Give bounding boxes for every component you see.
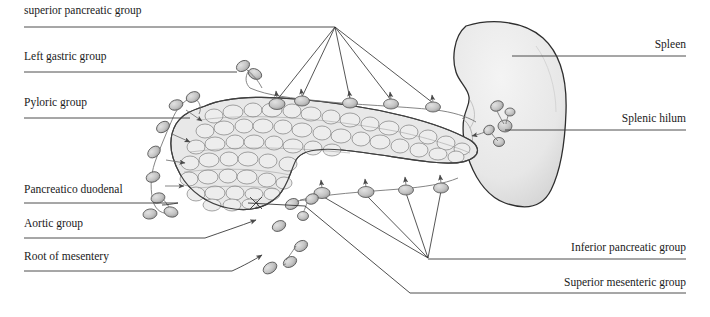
diagram-canvas: superior pancreatic group Left gastric g…	[0, 0, 710, 317]
inferior-pancreatic-fan	[322, 191, 441, 258]
label-inferior-pancreatic-group: Inferior pancreatic group	[571, 241, 686, 254]
superior-pancreatic-fan	[277, 27, 433, 103]
label-root-of-mesentery: Root of mesentery	[24, 250, 109, 263]
left-gastric-nodes	[234, 58, 263, 88]
left-pointer-arrows	[205, 220, 262, 271]
label-spleen: Spleen	[655, 38, 687, 51]
pointer-aortic	[205, 220, 256, 238]
label-left-gastric-group: Left gastric group	[24, 50, 107, 63]
label-pyloric-group: Pyloric group	[24, 96, 87, 109]
label-superior-mesenteric-group: Superior mesenteric group	[564, 276, 686, 289]
label-splenic-hilum: Splenic hilum	[622, 112, 686, 125]
label-superior-pancreatic-group: superior pancreatic group	[24, 4, 142, 17]
label-pancreatico-duodenal: Pancreatico duodenal	[24, 183, 123, 195]
label-aortic-group: Aortic group	[24, 217, 83, 230]
pointer-root-mesentery	[232, 255, 262, 271]
anatomy-figure: superior pancreatic group Left gastric g…	[0, 0, 710, 317]
leader-superior-mesenteric-diagonal	[305, 206, 410, 293]
